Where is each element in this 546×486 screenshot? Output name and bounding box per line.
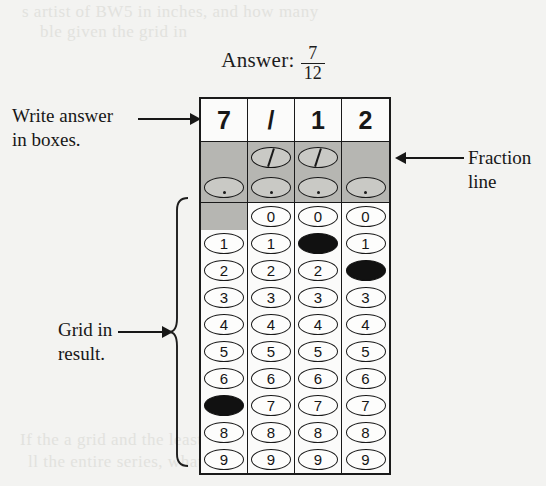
digit-cell-c3-9[interactable]: 9 [295,446,342,473]
bubble-c1-6[interactable]: 6 [204,368,244,389]
digit-cell-c4-7[interactable]: 7 [342,392,389,419]
digit-cell-c2-0[interactable]: 0 [248,203,295,230]
digit-cell-c4-6[interactable]: 6 [342,365,389,392]
bubble-c3-6[interactable]: 6 [298,368,338,389]
digit-cell-c2-2[interactable]: 2 [248,257,295,284]
bubble-c3-4[interactable]: 4 [298,314,338,335]
digit-cell-c3-5[interactable]: 5 [295,338,342,365]
digit-cell-c4-8[interactable]: 8 [342,419,389,446]
decimal-cell-1[interactable] [201,172,248,202]
digit-row-8[interactable]: 8888 [201,419,389,446]
decimal-point-bubble-3[interactable] [298,177,338,198]
bubble-c2-8[interactable]: 8 [251,422,291,443]
bubble-c1-8[interactable]: 8 [204,422,244,443]
bubble-c2-0[interactable]: 0 [251,206,291,227]
digit-cell-c2-5[interactable]: 5 [248,338,295,365]
write-in-row[interactable]: 7/12 [201,99,389,142]
digit-cell-c3-6[interactable]: 6 [295,365,342,392]
bubble-c4-6[interactable]: 6 [346,368,386,389]
digit-cell-c2-3[interactable]: 3 [248,284,295,311]
bubble-c2-4[interactable]: 4 [251,314,291,335]
write-in-cell-2[interactable]: / [248,99,295,141]
digit-cell-c2-6[interactable]: 6 [248,365,295,392]
fraction-slash-bubble-3[interactable] [298,147,338,168]
decimal-cell-2[interactable] [248,172,295,202]
bubble-c3-3[interactable]: 3 [298,287,338,308]
bubble-c1-4[interactable]: 4 [204,314,244,335]
bubble-c1-7[interactable]: 7 [204,395,244,416]
fraction-cell-1[interactable] [201,142,248,172]
digit-cell-c3-7[interactable]: 7 [295,392,342,419]
answer-grid[interactable]: 7/12000111122223333444455556666777788889… [199,97,391,475]
fraction-slash-bubble-2[interactable] [251,147,291,168]
bubble-c1-5[interactable]: 5 [204,341,244,362]
bubble-c2-2[interactable]: 2 [251,260,291,281]
digit-cell-c4-9[interactable]: 9 [342,446,389,473]
write-in-cell-1[interactable]: 7 [201,99,248,141]
bubble-c1-2[interactable]: 2 [204,260,244,281]
digit-cell-c4-5[interactable]: 5 [342,338,389,365]
digit-cell-c2-4[interactable]: 4 [248,311,295,338]
digit-cell-c4-0[interactable]: 0 [342,203,389,230]
digit-row-5[interactable]: 5555 [201,338,389,365]
digit-row-1[interactable]: 1111 [201,230,389,257]
bubble-c2-5[interactable]: 5 [251,341,291,362]
write-in-cell-4[interactable]: 2 [342,99,389,141]
bubble-c3-1[interactable]: 1 [298,233,338,254]
bubble-c2-3[interactable]: 3 [251,287,291,308]
bubble-c1-3[interactable]: 3 [204,287,244,308]
bubble-c4-3[interactable]: 3 [346,287,386,308]
digit-row-3[interactable]: 3333 [201,284,389,311]
digit-row-6[interactable]: 6666 [201,365,389,392]
bubble-c3-2[interactable]: 2 [298,260,338,281]
digit-row-9[interactable]: 9999 [201,446,389,473]
digit-row-7[interactable]: 7777 [201,392,389,419]
digit-row-4[interactable]: 4444 [201,311,389,338]
fraction-cell-2[interactable] [248,142,295,172]
bubble-c2-6[interactable]: 6 [251,368,291,389]
fraction-line-row[interactable] [201,142,389,172]
bubble-c2-7[interactable]: 7 [251,395,291,416]
digit-cell-c4-3[interactable]: 3 [342,284,389,311]
digit-cell-c4-4[interactable]: 4 [342,311,389,338]
digit-cell-c1-6[interactable]: 6 [201,365,248,392]
digit-cell-c2-7[interactable]: 7 [248,392,295,419]
digit-cell-c3-2[interactable]: 2 [295,257,342,284]
digit-cell-c1-5[interactable]: 5 [201,338,248,365]
bubble-c3-7[interactable]: 7 [298,395,338,416]
decimal-point-bubble-4[interactable] [346,177,386,198]
digit-cell-c1-2[interactable]: 2 [201,257,248,284]
bubble-c4-5[interactable]: 5 [346,341,386,362]
digit-row-0[interactable]: 000 [201,203,389,230]
digit-cell-c1-9[interactable]: 9 [201,446,248,473]
bubble-c3-0[interactable]: 0 [298,206,338,227]
decimal-point-bubble-2[interactable] [251,177,291,198]
digit-cell-c1-1[interactable]: 1 [201,230,248,257]
digit-cell-c3-1[interactable]: 1 [295,230,342,257]
bubble-c2-9[interactable]: 9 [251,449,291,470]
bubble-c1-1[interactable]: 1 [204,233,244,254]
digit-cell-c1-8[interactable]: 8 [201,419,248,446]
bubble-c4-1[interactable]: 1 [346,233,386,254]
digit-cell-c1-7[interactable]: 7 [201,392,248,419]
digit-cell-c1-4[interactable]: 4 [201,311,248,338]
bubble-c4-8[interactable]: 8 [346,422,386,443]
digit-cell-c4-2[interactable]: 2 [342,257,389,284]
decimal-cell-4[interactable] [342,172,389,202]
bubble-c4-0[interactable]: 0 [346,206,386,227]
bubble-c1-9[interactable]: 9 [204,449,244,470]
bubble-c4-7[interactable]: 7 [346,395,386,416]
fraction-cell-3[interactable] [295,142,342,172]
digit-row-2[interactable]: 2222 [201,257,389,284]
bubble-c3-9[interactable]: 9 [298,449,338,470]
digit-cell-c3-3[interactable]: 3 [295,284,342,311]
bubble-c2-1[interactable]: 1 [251,233,291,254]
write-in-cell-3[interactable]: 1 [295,99,342,141]
digit-cell-c1-3[interactable]: 3 [201,284,248,311]
decimal-point-bubble-1[interactable] [204,177,244,198]
decimal-point-row[interactable] [201,172,389,203]
bubble-c3-5[interactable]: 5 [298,341,338,362]
digit-cell-c3-8[interactable]: 8 [295,419,342,446]
digit-cell-c2-9[interactable]: 9 [248,446,295,473]
bubble-c3-8[interactable]: 8 [298,422,338,443]
